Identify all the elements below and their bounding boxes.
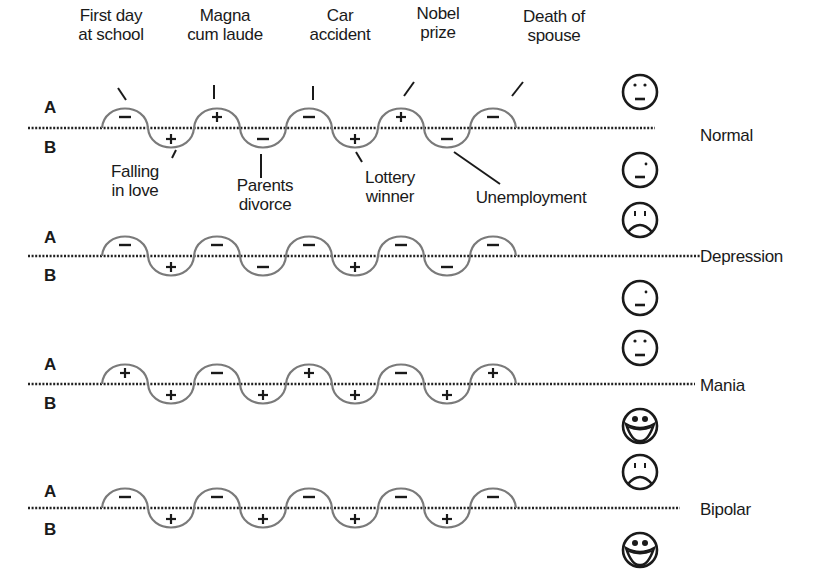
face-neutral-wink-icon [623,281,657,315]
plus-sign [442,514,452,524]
leader-line [404,82,414,96]
plus-sign [304,368,314,378]
plus-sign [350,514,360,524]
plus-sign [350,262,360,272]
leader-line [512,82,523,96]
face-neutral-wink-icon [623,153,657,187]
plus-sign [166,134,176,144]
label-b-depression: B [44,266,56,286]
event-label-first-day-at-school: First day at school [56,6,166,44]
mood-wave-diagram [0,0,819,579]
event-label-magna-cum-laude: Magna cum laude [170,6,280,44]
condition-label-bipolar: Bipolar [700,500,751,520]
event-label-falling-in-love: Falling in love [90,162,180,200]
plus-sign [166,390,176,400]
plus-sign [258,390,268,400]
face-neutral-icon [623,75,657,109]
face-big-smile-icon [623,409,657,443]
leader-line [356,152,362,162]
event-label-nobel-prize: Nobel prize [398,4,478,42]
condition-row-depression [28,203,700,315]
label-b-normal: B [44,138,56,158]
plus-sign [350,134,360,144]
label-a-normal: A [44,98,56,118]
plus-sign [120,368,130,378]
plus-sign [212,112,222,122]
event-label-lottery-winner: Lottery winner [345,168,435,206]
leader-line [454,152,500,184]
plus-sign [166,262,176,272]
leader-line [172,150,176,158]
plus-sign [258,514,268,524]
label-b-mania: B [44,394,56,414]
condition-label-depression: Depression [700,247,783,267]
plus-sign [488,368,498,378]
face-neutral-icon [623,331,657,365]
event-label-death-of-spouse: Death of spouse [504,7,604,45]
face-big-smile-icon [623,533,657,567]
event-label-unemployment: Unemployment [456,188,606,207]
event-label-parents-divorce: Parents divorce [220,176,310,214]
face-sad-icon [623,203,657,237]
label-a-bipolar: A [44,482,56,502]
plus-sign [442,390,452,400]
condition-label-mania: Mania [700,376,745,396]
label-a-depression: A [44,228,56,248]
face-sad-icon [623,455,657,489]
plus-sign [350,390,360,400]
condition-row-bipolar [28,455,680,567]
condition-label-normal: Normal [700,126,753,146]
event-label-car-accident: Car accident [290,6,390,44]
condition-row-mania [28,331,695,443]
leader-line [118,88,126,100]
label-b-bipolar: B [44,520,56,540]
plus-sign [396,112,406,122]
label-a-mania: A [44,355,56,375]
plus-sign [166,514,176,524]
